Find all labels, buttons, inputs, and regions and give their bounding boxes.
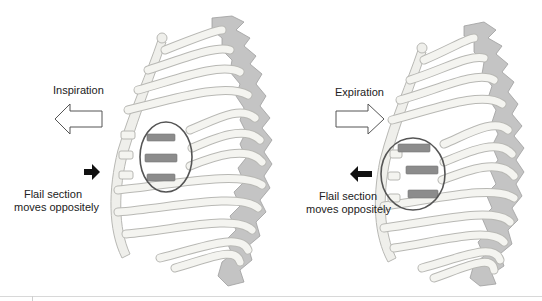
inspiration-panel: Inspiration Flail section moves opposite…: [0, 0, 290, 290]
costal-stubs-icon: [119, 131, 135, 179]
flail-label-line1: Flail section: [14, 188, 92, 201]
rib-cage-expiration-illustration: [272, 0, 542, 290]
flail-label-expiration: Flail section moves oppositely: [306, 190, 390, 216]
footer-tick: [32, 296, 33, 301]
expiration-label: Expiration: [335, 86, 384, 99]
inspiration-arrow-icon: [55, 104, 102, 134]
flail-label-line1: Flail section: [306, 190, 390, 203]
sternum-icon: [111, 40, 166, 258]
flail-movement-arrow-icon: [84, 164, 100, 180]
costal-stubs-icon: [388, 150, 402, 202]
rib-cage-inspiration-illustration: [0, 0, 290, 290]
expiration-panel: Expiration Flail section moves oppositel…: [272, 0, 542, 290]
inspiration-label: Inspiration: [53, 84, 104, 97]
flail-movement-arrow-icon: [350, 166, 372, 182]
expiration-arrow-icon: [336, 104, 384, 134]
footer-divider: [0, 296, 542, 297]
flail-fragments-icon: [145, 134, 177, 181]
flail-fragments-icon: [398, 144, 438, 198]
flail-label-inspiration: Flail section moves oppositely: [14, 188, 92, 214]
flail-label-line2: moves oppositely: [14, 201, 92, 214]
flail-label-line2: moves oppositely: [306, 203, 390, 216]
